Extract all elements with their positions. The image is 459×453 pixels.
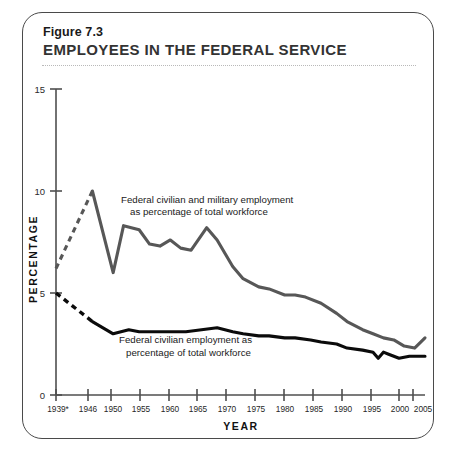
y-tick-label: 5 [40, 288, 45, 299]
annotation-line: percentage of total workforce [126, 347, 251, 358]
x-axis-title: YEAR [223, 420, 259, 432]
series-civilian-dashed-segment [56, 293, 92, 322]
x-axis-tick-labels: 1939* 1946 1950 1955 1960 1965 1970 1975… [47, 404, 432, 414]
y-tick-label: 15 [34, 84, 45, 95]
x-tick-label: 1939* [47, 404, 69, 414]
annotation-civilian-employment: Federal civilian employment as percentag… [119, 334, 252, 358]
annotation-line: as percentage of total workforce [130, 206, 268, 217]
x-tick-label: 1995 [363, 404, 382, 414]
x-tick-label: 1975 [247, 404, 266, 414]
y-tick-label: 0 [40, 390, 45, 401]
figure-card: Figure 7.3 EMPLOYEES IN THE FEDERAL SERV… [22, 12, 434, 439]
line-chart-svg: 15 10 5 0 PERCENTAGE [23, 13, 435, 440]
y-axis-title: PERCENTAGE [27, 215, 39, 303]
x-tick-label: 1946 [79, 404, 98, 414]
x-tick-label: 1970 [218, 404, 237, 414]
chart-plot-area: 15 10 5 0 PERCENTAGE [23, 13, 435, 440]
x-tick-label: 2005 [414, 404, 433, 414]
series-total-dashed-segment [56, 191, 92, 269]
x-tick-label: 1955 [132, 404, 151, 414]
x-tick-label: 1965 [189, 404, 208, 414]
x-tick-label: 1960 [161, 404, 180, 414]
annotation-line: Federal civilian and military employment [121, 194, 294, 205]
x-tick-label: 2000 [391, 404, 410, 414]
x-tick-label: 1985 [305, 404, 324, 414]
x-tick-label: 1990 [334, 404, 353, 414]
annotation-total-employment: Federal civilian and military employment… [121, 194, 294, 217]
x-tick-label: 1980 [276, 404, 295, 414]
x-tick-label: 1950 [104, 404, 123, 414]
annotation-line: Federal civilian employment as [119, 334, 252, 345]
y-tick-label: 10 [34, 186, 45, 197]
